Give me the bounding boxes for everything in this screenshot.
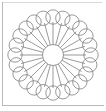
ring-circle [27,81,41,95]
ring-circle [83,58,97,72]
ring-circle [19,21,33,35]
ring-circle [65,15,79,29]
center-circle [43,45,64,66]
ring-circle [65,81,79,95]
ring-circle [83,38,97,52]
spoke-line [60,32,76,48]
spoke-line [30,32,46,48]
ring-circle [79,29,93,43]
ring-circle [73,21,87,35]
spoke-line [30,62,46,78]
ring-circle [27,15,41,29]
ring-circle [36,11,50,25]
spoke-line [60,62,76,78]
ring-circle [9,58,23,72]
ring-circle [9,38,23,52]
ring-circle [36,85,50,99]
ring-circle [19,75,33,89]
ring-circle [56,85,70,99]
ring-circle [13,29,27,43]
ring-circle [73,75,87,89]
ring-circle [56,11,70,25]
spokes-group [20,22,86,88]
image-canvas [0,0,106,111]
ring-circle [79,67,93,81]
ring-circle [13,67,27,81]
rosette-mandala-figure [0,0,106,111]
